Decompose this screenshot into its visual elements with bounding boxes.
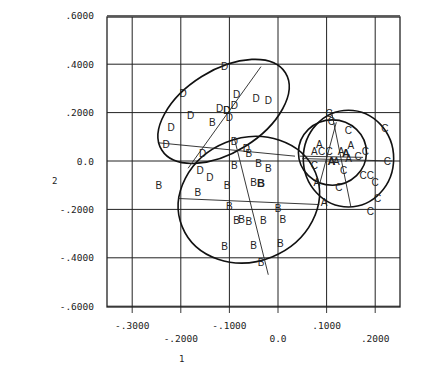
y-tick-label: .4000 bbox=[65, 59, 94, 70]
point-B: B bbox=[246, 216, 253, 227]
point-D: D bbox=[197, 165, 204, 176]
point-C: C bbox=[359, 170, 366, 181]
point-B: B bbox=[224, 180, 231, 191]
point-D: D bbox=[187, 110, 194, 121]
x-tick-labels: -.3000-.2000-.10000.0.1000.2000 bbox=[115, 320, 390, 344]
point-B: B bbox=[258, 257, 265, 268]
point-C: C bbox=[355, 151, 362, 162]
x-tick-label: -.2000 bbox=[164, 333, 199, 344]
point-B: B bbox=[277, 238, 284, 249]
y-axis-title: 2 bbox=[52, 176, 57, 186]
ellipse-axis-D bbox=[159, 143, 295, 156]
scatter-chart: DDDDDDDDDDDDDDDDDDBBBBBBBBBBBBBBBBBBBBBC… bbox=[0, 0, 438, 378]
ellipse-axes bbox=[159, 67, 392, 275]
grid-lines bbox=[107, 16, 400, 313]
point-D: D bbox=[223, 105, 230, 116]
y-tick-label: -.6000 bbox=[60, 301, 95, 312]
point-C: C bbox=[362, 146, 369, 157]
point-C: C bbox=[384, 156, 391, 167]
point-D: D bbox=[206, 172, 213, 183]
point-C: C bbox=[335, 182, 342, 193]
y-tick-label: 0.0 bbox=[77, 156, 94, 167]
point-D: D bbox=[253, 93, 260, 104]
x-axis-title: 1 bbox=[179, 354, 184, 364]
point-A: A bbox=[314, 177, 321, 188]
point-B: B bbox=[246, 148, 253, 159]
point-C: C bbox=[345, 125, 352, 136]
point-B: B bbox=[156, 180, 163, 191]
point-C: C bbox=[381, 123, 388, 134]
point-B: B bbox=[238, 214, 245, 225]
x-tick-label: 0.0 bbox=[269, 333, 286, 344]
point-B: B bbox=[280, 214, 287, 225]
ellipse-axis-B bbox=[178, 199, 319, 205]
point-B: B bbox=[250, 240, 257, 251]
x-tick-label: -.3000 bbox=[115, 320, 150, 331]
point-D: D bbox=[199, 148, 206, 159]
y-tick-label: .2000 bbox=[65, 107, 94, 118]
point-B: B bbox=[209, 117, 216, 128]
point-B: B bbox=[221, 241, 228, 252]
point-B: B bbox=[231, 160, 238, 171]
centroid-B: B bbox=[257, 177, 265, 189]
point-D: D bbox=[221, 61, 228, 72]
point-B: B bbox=[226, 201, 233, 212]
ellipse-B bbox=[159, 116, 339, 284]
point-B: B bbox=[275, 203, 282, 214]
point-A: A bbox=[311, 146, 318, 157]
plot-frame bbox=[107, 17, 400, 307]
centroid-A: A bbox=[327, 155, 335, 167]
point-D: D bbox=[180, 88, 187, 99]
point-D: D bbox=[167, 122, 174, 133]
y-tick-label: -.2000 bbox=[60, 204, 95, 215]
point-B: B bbox=[260, 215, 267, 226]
point-D: D bbox=[233, 89, 240, 100]
point-C: C bbox=[367, 206, 374, 217]
point-C: C bbox=[374, 193, 381, 204]
point-C: C bbox=[311, 160, 318, 171]
point-C: C bbox=[372, 177, 379, 188]
x-tick-label: -.1000 bbox=[212, 320, 247, 331]
point-D: D bbox=[231, 136, 238, 147]
point-C: C bbox=[328, 116, 335, 127]
point-A: A bbox=[321, 197, 328, 208]
point-D: D bbox=[231, 100, 238, 111]
centroid-A: A bbox=[342, 147, 350, 159]
point-B: B bbox=[255, 158, 262, 169]
y-tick-labels: .6000.4000.20000.0-.2000-.4000-.6000 bbox=[60, 10, 95, 311]
x-tick-label: .1000 bbox=[312, 320, 341, 331]
y-tick-label: -.4000 bbox=[60, 252, 95, 263]
point-C: C bbox=[340, 165, 347, 176]
point-D: D bbox=[163, 139, 170, 150]
point-B: B bbox=[265, 163, 272, 174]
y-tick-label: .6000 bbox=[65, 10, 94, 21]
point-D: D bbox=[265, 95, 272, 106]
x-tick-label: .2000 bbox=[361, 333, 390, 344]
point-D: D bbox=[216, 103, 223, 114]
point-B: B bbox=[194, 187, 201, 198]
